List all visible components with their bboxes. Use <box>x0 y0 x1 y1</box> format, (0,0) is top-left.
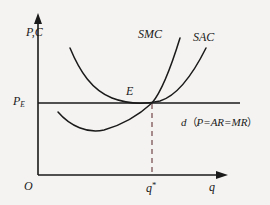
sac-curve-label: SAC <box>193 31 214 43</box>
equilibrium-price-subscript: E <box>20 100 25 109</box>
demand-line-label: d（P=AR=MR） <box>181 117 257 128</box>
economics-diagram: P,C SMC SAC E PE O q* q d（P=AR=MR） <box>0 0 270 205</box>
demand-paren-close: ） <box>247 116 257 128</box>
equilibrium-quantity-superscript: * <box>152 180 156 190</box>
origin-label: O <box>24 180 33 192</box>
sac-curve <box>70 48 206 103</box>
equilibrium-price-label: PE <box>13 95 25 108</box>
x-axis-arrowhead <box>216 171 228 179</box>
y-axis-label: P,C <box>26 26 43 38</box>
demand-paren-open: （ <box>187 116 197 128</box>
equilibrium-point-label: E <box>126 85 133 97</box>
quantity-axis <box>38 171 228 179</box>
y-axis-arrowhead <box>34 13 42 24</box>
smc-curve <box>58 38 180 131</box>
x-axis-label: q <box>209 181 215 193</box>
smc-curve-label: SMC <box>138 28 162 40</box>
equilibrium-quantity-label: q* <box>146 181 156 194</box>
demand-expression: P=AR=MR <box>197 116 248 128</box>
